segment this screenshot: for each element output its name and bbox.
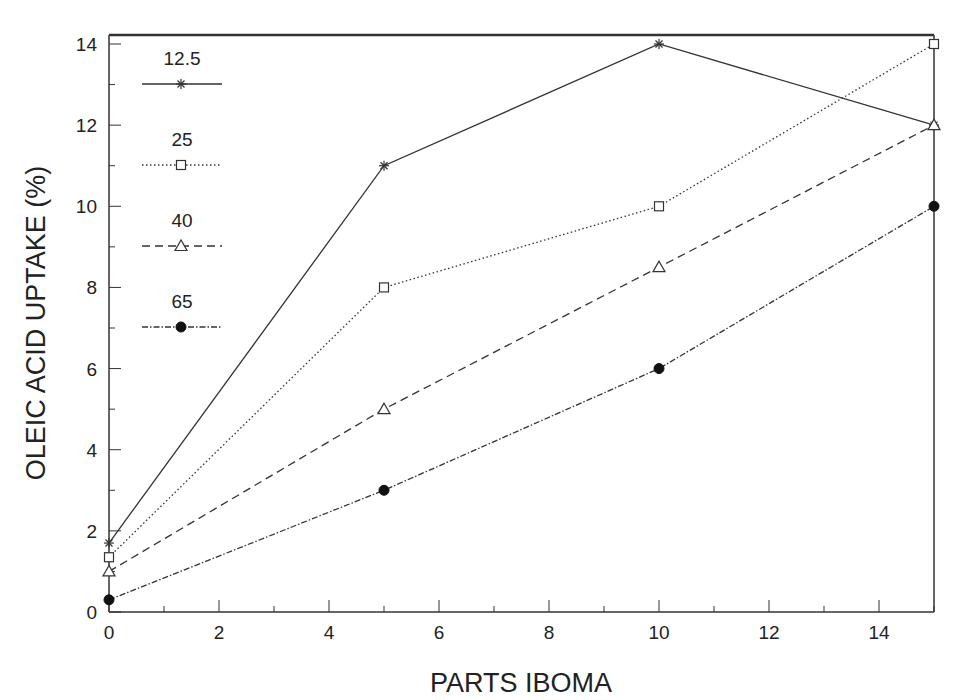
x-axis-title: PARTS IBOMA xyxy=(430,668,612,698)
data-point-square-icon xyxy=(105,553,114,562)
legend-item: 40 xyxy=(142,210,222,251)
data-point-square-icon xyxy=(380,283,389,292)
x-tick-label: 2 xyxy=(214,622,225,643)
legend-item: 12.5 xyxy=(142,48,222,89)
data-point-square-icon xyxy=(930,40,939,49)
data-point-triangle-icon xyxy=(103,565,115,576)
y-tick-label: 6 xyxy=(86,359,97,380)
data-point-star-icon xyxy=(654,39,664,49)
x-tick-label: 12 xyxy=(758,622,779,643)
x-tick-label: 6 xyxy=(434,622,445,643)
data-point-filled-circle-icon xyxy=(654,364,664,374)
series-40 xyxy=(103,119,940,576)
x-tick-label: 14 xyxy=(868,622,890,643)
x-tick-label: 4 xyxy=(324,622,335,643)
data-point-square-icon xyxy=(655,202,664,211)
data-point-filled-circle-icon xyxy=(929,201,939,211)
legend: 12.5254065 xyxy=(142,48,222,332)
line-chart: 02468101214 02468101214 12.5254065 PARTS… xyxy=(0,0,964,700)
data-point-filled-circle-icon xyxy=(379,485,389,495)
y-tick-label: 10 xyxy=(76,196,97,217)
legend-triangle-icon xyxy=(175,240,187,251)
legend-square-icon xyxy=(177,161,186,170)
plot-frame xyxy=(109,35,934,612)
data-point-triangle-icon xyxy=(378,403,390,414)
series-12-5 xyxy=(104,39,939,548)
legend-star-icon xyxy=(176,79,186,89)
y-tick-label: 12 xyxy=(76,115,97,136)
y-tick-label: 2 xyxy=(86,521,97,542)
x-tick-label: 8 xyxy=(544,622,555,643)
legend-filled-circle-icon xyxy=(176,322,186,332)
x-tick-label: 0 xyxy=(104,622,115,643)
legend-label: 25 xyxy=(171,129,192,150)
data-series xyxy=(103,39,940,605)
y-tick-label: 14 xyxy=(76,34,98,55)
data-point-filled-circle-icon xyxy=(104,595,114,605)
data-point-triangle-icon xyxy=(653,261,665,272)
y-tick-label: 8 xyxy=(86,277,97,298)
y-tick-label: 4 xyxy=(86,440,97,461)
data-point-star-icon xyxy=(104,538,114,548)
series-65 xyxy=(104,201,939,605)
y-axis-title: OLEIC ACID UPTAKE (%) xyxy=(21,166,51,481)
x-tick-label: 10 xyxy=(648,622,669,643)
data-point-star-icon xyxy=(379,161,389,171)
y-tick-label: 0 xyxy=(86,602,97,623)
legend-label: 65 xyxy=(171,291,192,312)
y-axis: 02468101214 xyxy=(76,34,121,623)
legend-item: 25 xyxy=(142,129,222,170)
x-axis: 02468101214 xyxy=(104,600,934,643)
legend-item: 65 xyxy=(142,291,222,332)
legend-label: 12.5 xyxy=(164,48,201,69)
legend-label: 40 xyxy=(171,210,192,231)
series-25 xyxy=(105,40,939,562)
